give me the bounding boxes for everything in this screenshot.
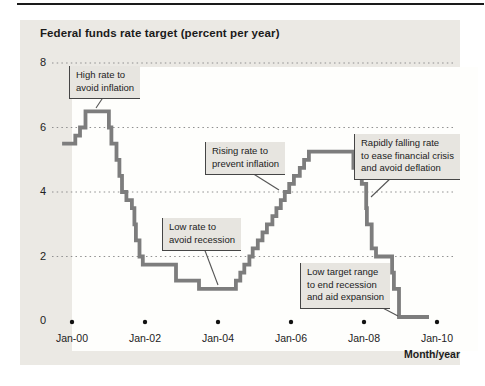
x-tick-label-Jan-00: Jan-00 [42, 332, 102, 344]
figure: Federal funds rate target (percent per y… [0, 0, 485, 386]
annotation-low-rate: Low rate to avoid recession [162, 218, 241, 251]
y-tick-label-2: 2 [20, 250, 46, 262]
annotation-low-target: Low target range to end recession and ai… [300, 263, 390, 309]
annotation-high-rate: High rate to avoid inflation [69, 66, 140, 99]
annotation-rising-rate: Rising rate to prevent inflation [205, 142, 285, 175]
y-tick-label-4: 4 [20, 185, 46, 197]
y-tick-label-8: 8 [20, 56, 46, 68]
top-rule [17, 3, 484, 5]
x-tick-label-Jan-04: Jan-04 [188, 332, 248, 344]
x-tick-label-Jan-02: Jan-02 [115, 332, 175, 344]
x-tick-label-Jan-06: Jan-06 [261, 332, 321, 344]
x-axis-title: Month/year [360, 348, 460, 360]
y-tick-label-6: 6 [20, 121, 46, 133]
plot-area [72, 67, 478, 351]
x-tick-label-Jan-08: Jan-08 [334, 332, 394, 344]
annotation-rapidly-falling: Rapidly falling rate to ease financial c… [354, 134, 460, 180]
y-tick-label-0: 0 [20, 314, 46, 326]
chart-title: Federal funds rate target (percent per y… [40, 27, 280, 39]
x-tick-label-Jan-10: Jan-10 [407, 332, 467, 344]
